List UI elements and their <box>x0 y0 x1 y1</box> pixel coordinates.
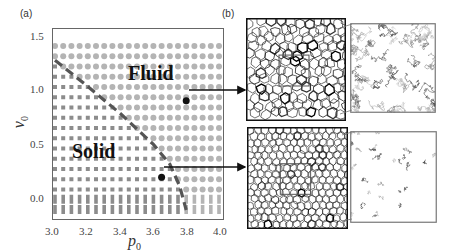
y-tick-0.0: 0.0 <box>30 192 44 204</box>
solid-region-label: Solid <box>72 140 115 163</box>
x-axis-title: p0 <box>128 232 141 250</box>
phase-diagram-plot <box>52 28 224 220</box>
y-axis-title-main: v <box>10 121 27 128</box>
x-axis-title-sub: 0 <box>136 241 141 250</box>
y-tick-1.5: 1.5 <box>30 30 44 42</box>
x-tick-3.0: 3.0 <box>45 225 59 237</box>
fluid-voronoi-snapshot <box>246 18 346 121</box>
x-tick-3.4: 3.4 <box>113 225 127 237</box>
x-axis-title-main: p <box>128 232 136 249</box>
fluid-trajectory-inset <box>350 23 436 113</box>
x-tick-3.2: 3.2 <box>79 225 93 237</box>
y-tick-1.0: 1.0 <box>30 83 44 95</box>
x-tick-3.6: 3.6 <box>146 225 160 237</box>
panel-a-label: (a) <box>20 8 32 19</box>
panel-b-label: (b) <box>222 8 234 19</box>
solid-voronoi-snapshot <box>247 127 348 229</box>
y-axis-title: v0 <box>10 116 30 128</box>
solid-trajectory-inset <box>350 131 437 223</box>
x-tick-4.0: 4.0 <box>213 225 227 237</box>
y-axis-title-sub: 0 <box>19 116 30 121</box>
y-tick-0.5: 0.5 <box>30 138 44 150</box>
fluid-region-label: Fluid <box>128 62 174 85</box>
x-tick-3.8: 3.8 <box>180 225 194 237</box>
